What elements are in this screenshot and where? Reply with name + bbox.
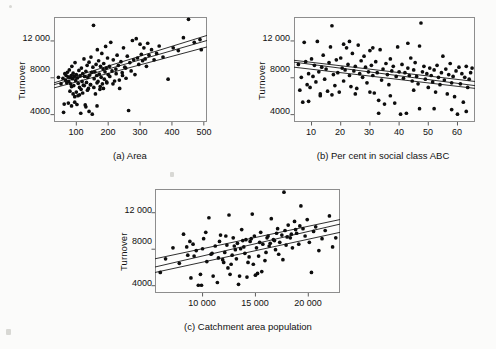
data-point (192, 254, 196, 258)
data-point (312, 230, 316, 234)
data-point (85, 64, 89, 68)
data-point (412, 68, 416, 72)
data-point (441, 54, 445, 58)
data-point (128, 61, 132, 65)
data-point (355, 87, 359, 91)
data-point (99, 64, 103, 68)
data-point (106, 56, 110, 60)
data-point (425, 72, 429, 76)
panel-b (294, 17, 475, 122)
data-point (96, 48, 100, 52)
data-point (285, 235, 289, 239)
data-point (152, 58, 156, 62)
data-point (186, 253, 190, 257)
data-point (205, 260, 209, 264)
data-point (85, 81, 89, 85)
data-point (378, 48, 382, 52)
data-point (362, 54, 366, 58)
data-point (330, 24, 334, 28)
panel-c-ytick-12000: 12 000 (110, 205, 152, 215)
data-point (334, 58, 338, 62)
data-point (457, 65, 461, 69)
data-point (87, 60, 91, 64)
panel-b-xtick-10: 10 (306, 127, 316, 137)
data-point (211, 274, 215, 278)
panel-a-xtick-300: 300 (132, 127, 147, 137)
data-point (342, 79, 346, 83)
panel-b-xtick-60: 60 (452, 127, 462, 137)
data-point (308, 86, 312, 90)
data-point (371, 74, 375, 78)
data-point (318, 94, 322, 98)
data-point (164, 257, 168, 261)
data-point (337, 90, 341, 94)
data-point (386, 73, 390, 77)
data-point (131, 39, 135, 43)
data-point (104, 66, 108, 70)
data-point (139, 52, 143, 56)
data-point (207, 216, 211, 220)
data-point (114, 72, 118, 76)
data-point (66, 101, 70, 105)
data-point (79, 111, 83, 115)
data-point (464, 64, 468, 68)
data-point (438, 83, 442, 87)
data-point (282, 190, 286, 194)
data-point (146, 41, 150, 45)
data-point (89, 83, 93, 87)
data-point (405, 111, 409, 115)
data-point (84, 105, 88, 109)
data-point (276, 227, 280, 231)
data-point (182, 36, 186, 40)
data-point (102, 62, 106, 66)
data-point (321, 53, 325, 57)
data-point (320, 237, 324, 241)
data-point (317, 249, 321, 253)
data-point (331, 245, 335, 249)
data-point (329, 45, 333, 49)
data-point (410, 79, 414, 83)
data-point (304, 60, 308, 64)
data-point (111, 82, 115, 86)
data-point (418, 107, 422, 111)
data-point (470, 66, 474, 70)
data-point (155, 52, 159, 56)
data-point (74, 90, 78, 94)
data-point (233, 248, 237, 252)
data-point (377, 99, 381, 103)
data-point (295, 231, 299, 235)
data-point (246, 261, 250, 265)
data-point (459, 82, 463, 86)
data-point (127, 109, 131, 113)
data-point (229, 262, 233, 266)
data-point (388, 57, 392, 61)
data-point (324, 67, 328, 71)
data-point (92, 86, 96, 90)
data-point (244, 238, 248, 242)
data-point (241, 239, 245, 243)
panel-c-caption: (c) Catchment area population (184, 321, 312, 332)
data-point (348, 74, 352, 78)
data-point (80, 66, 84, 70)
data-point (432, 68, 436, 72)
data-point (453, 95, 457, 99)
data-point (198, 38, 202, 42)
data-point (278, 241, 282, 245)
data-point (117, 64, 121, 68)
data-point (99, 75, 103, 79)
data-point (95, 81, 99, 85)
data-point (59, 82, 63, 86)
data-point (236, 241, 240, 245)
data-point (393, 101, 397, 105)
data-point (380, 78, 384, 82)
panel-c-ytick-8000: 8000 (110, 236, 152, 246)
data-point (361, 75, 365, 79)
data-point (333, 84, 337, 88)
data-point (332, 73, 336, 77)
data-point (307, 99, 311, 103)
data-point (387, 83, 391, 87)
data-point (461, 100, 465, 104)
data-point (70, 85, 74, 89)
data-point (62, 110, 66, 114)
data-point (103, 70, 107, 74)
